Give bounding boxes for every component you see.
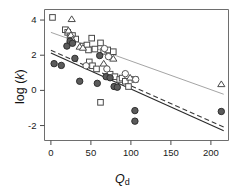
y-axis-label: log (k) — [13, 69, 27, 104]
marker-open-square — [98, 100, 104, 106]
marker-open-square — [98, 40, 104, 46]
marker-open-square — [94, 66, 100, 72]
trend-line-middle-dashed — [51, 50, 224, 127]
marker-triangle — [100, 60, 107, 66]
marker-open-square — [50, 15, 56, 21]
marker-open-circle — [122, 70, 128, 76]
x-tick-label: 100 — [111, 147, 151, 158]
marker-open-square — [92, 46, 98, 52]
figure-scatter-plot: -2024050100150200 Qd log (k) — [0, 0, 238, 193]
marker-filled-circle — [97, 52, 103, 58]
marker-filled-circle — [77, 78, 83, 84]
marker-open-square — [126, 84, 132, 90]
marker-open-circle — [133, 76, 139, 82]
marker-open-circle — [101, 45, 107, 51]
marker-open-square — [111, 49, 117, 55]
marker-open-circle — [104, 66, 110, 72]
x-tick-label: 0 — [31, 147, 71, 158]
x-tick-label: 150 — [151, 147, 191, 158]
marker-filled-circle — [132, 107, 138, 113]
marker-filled-circle — [94, 80, 100, 86]
marker-filled-circle — [51, 60, 57, 66]
marker-open-circle — [83, 63, 89, 69]
marker-open-circle — [105, 53, 111, 59]
marker-filled-circle — [114, 84, 120, 90]
data-points — [50, 15, 225, 125]
y-tick-label: 2 — [0, 49, 37, 60]
marker-filled-circle — [218, 108, 224, 114]
marker-filled-circle — [107, 75, 113, 81]
marker-filled-circle — [72, 55, 78, 61]
marker-filled-circle — [132, 118, 138, 124]
marker-open-square — [89, 35, 95, 41]
series-open-square — [50, 15, 138, 106]
x-tick-label: 50 — [71, 147, 111, 158]
y-tick-label: 4 — [0, 14, 37, 25]
x-axis-label: Qd — [115, 172, 130, 187]
y-tick-label: -2 — [0, 120, 37, 131]
marker-triangle — [218, 81, 225, 87]
marker-filled-circle — [58, 62, 64, 68]
marker-triangle — [68, 16, 75, 22]
plot-canvas — [0, 0, 238, 193]
x-tick-label: 200 — [191, 147, 231, 158]
marker-filled-circle — [69, 40, 75, 46]
